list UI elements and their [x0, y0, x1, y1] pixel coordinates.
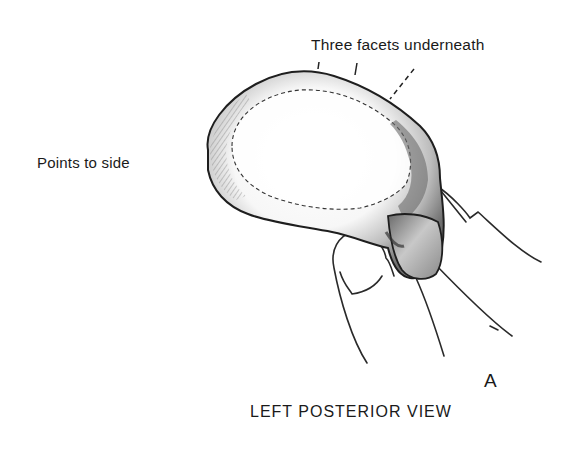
annotation-three-facets: Three facets underneath: [311, 36, 485, 54]
finger-back: [433, 186, 541, 336]
bone: [208, 71, 444, 279]
figure-caption: LEFT POSTERIOR VIEW: [250, 403, 452, 421]
panel-letter: A: [484, 370, 497, 392]
annotation-points-to-side: Points to side: [37, 154, 130, 171]
